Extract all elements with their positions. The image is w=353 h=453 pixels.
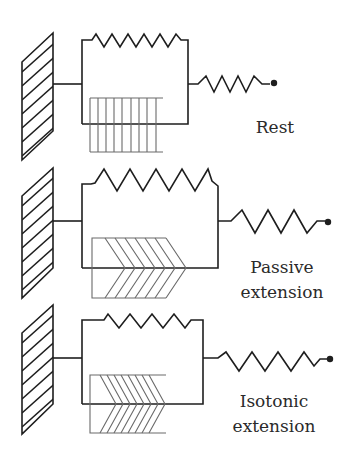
panel-rest xyxy=(22,33,277,170)
series-spring xyxy=(203,352,327,371)
label-line: Rest xyxy=(240,116,310,138)
endpoint-dot xyxy=(271,80,277,86)
label-line: extension xyxy=(218,415,330,437)
endpoint-dot xyxy=(327,356,333,362)
label-line: Isotonic xyxy=(218,390,330,412)
parallel-spring xyxy=(82,169,218,268)
label-rest: Rest xyxy=(240,116,310,138)
series-spring xyxy=(188,76,270,92)
label-line: extension xyxy=(226,281,338,303)
series-spring xyxy=(218,210,325,233)
wall-anchor xyxy=(22,305,60,441)
label-line: Passive xyxy=(226,256,338,278)
parallel-spring xyxy=(82,314,203,404)
label-isotonic-extension: Isotonic extension xyxy=(218,390,330,437)
wall-anchor xyxy=(22,168,60,304)
label-passive-extension: Passive extension xyxy=(226,256,338,303)
endpoint-dot xyxy=(325,219,331,225)
muscle-model-diagram xyxy=(0,0,353,453)
wall-anchor xyxy=(22,33,60,170)
filaments-comb xyxy=(90,98,163,152)
